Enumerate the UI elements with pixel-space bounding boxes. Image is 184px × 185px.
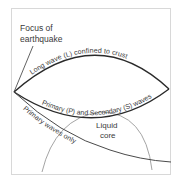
focus-label-line2: earthquake xyxy=(20,34,63,44)
focus-label-line1: Focus of xyxy=(20,23,53,33)
long-wave-label: Long wave (L) confined to crust xyxy=(28,47,128,76)
core-label-line1: Liquid xyxy=(96,121,117,130)
core-label-line2: core xyxy=(100,131,116,140)
earthquake-wave-diagram: Focus of earthquake Long wave (L) confin… xyxy=(0,0,184,185)
long-wave-path xyxy=(14,55,169,92)
